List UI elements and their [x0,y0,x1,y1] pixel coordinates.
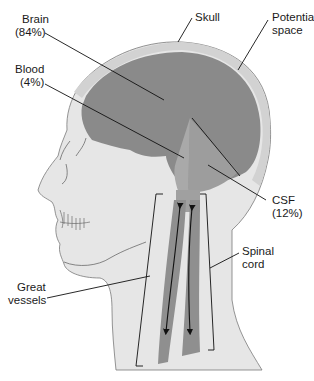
diagram-canvas: Brain (84%) Blood (4%) Skull Potential s… [0,0,314,381]
skull-leader-line [178,18,192,42]
label-great-vessels-line1: Great [17,281,47,293]
label-blood-name: Blood [15,63,44,75]
label-csf-value: (12%) [272,207,303,219]
label-brain-name: Brain [22,13,49,25]
potential-space-leader-line [238,20,268,70]
label-spinal-cord-line1: Spinal [242,245,274,257]
label-potential-space-line2: space [272,24,303,36]
label-spinal-cord-line2: cord [242,258,264,270]
label-csf-name: CSF [272,194,295,206]
label-brain-value: (84%) [15,26,46,38]
label-blood-value: (4%) [20,76,44,88]
label-great-vessels-line2: vessels [8,294,47,306]
label-skull: Skull [195,11,220,23]
head-diagram: Brain (84%) Blood (4%) Skull Potential s… [0,0,314,381]
label-potential-space-line1: Potential [272,11,314,23]
